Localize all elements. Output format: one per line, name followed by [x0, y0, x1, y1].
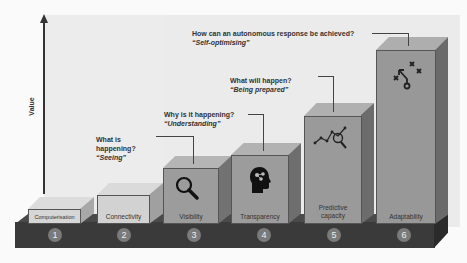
stage-box-1: Computerisation: [28, 197, 94, 224]
strategy-play-icon: [391, 59, 425, 93]
stage-box-3: Visibility: [163, 156, 231, 224]
leader-line-6: [372, 33, 409, 46]
leader-line-3: [156, 136, 194, 164]
head-brain-icon: [248, 166, 272, 194]
stage-label-5: Predictive capacity: [305, 204, 361, 220]
stage-number-2: 2: [117, 228, 131, 242]
stage-label-4: Transparency: [232, 213, 288, 220]
stage-label-3: Visibility: [164, 213, 218, 220]
stage-box-4: Transparency: [231, 143, 301, 224]
question-being-prepared: What will happen? “Being prepared”: [230, 76, 291, 94]
stage-label-1: Computerisation: [29, 214, 80, 220]
stage-number-5: 5: [327, 228, 341, 242]
leader-line-4: [248, 114, 264, 151]
stage-number-3: 3: [187, 228, 201, 242]
stage-label-2: Connectivity: [98, 213, 149, 220]
axis-label: Value: [28, 97, 35, 115]
stage-label-6: Adaptability: [377, 213, 435, 220]
leader-line-5: [318, 76, 334, 112]
stage-number-4: 4: [257, 228, 271, 242]
stage-box-6: Adaptability: [376, 37, 448, 224]
stage-number-6: 6: [397, 228, 411, 242]
magnifier-icon: [174, 175, 200, 201]
question-understanding: Why is it happening? “Understanding”: [164, 110, 234, 128]
platform: [15, 222, 435, 248]
question-seeing: What is happening? “Seeing”: [96, 135, 136, 162]
stage-box-5: Predictive capacity: [304, 103, 374, 224]
stage-box-2: Connectivity: [97, 183, 163, 224]
stage-number-1: 1: [48, 228, 62, 242]
value-axis: [43, 22, 45, 194]
question-self-optimising: How can an autonomous response be achiev…: [192, 29, 354, 47]
graph-magnifier-icon: [313, 125, 353, 153]
